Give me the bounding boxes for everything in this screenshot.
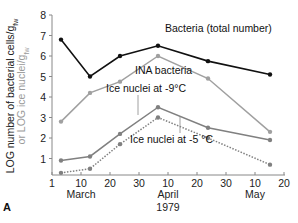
year-label: 1979 [156, 201, 180, 213]
series-layer [59, 37, 272, 175]
data-point [206, 126, 210, 130]
y-tick-label: 3 [40, 112, 46, 124]
data-point [59, 158, 63, 162]
data-point [156, 105, 160, 109]
data-point [156, 54, 160, 58]
data-point [206, 59, 210, 63]
data-point [59, 171, 63, 175]
data-point [268, 72, 272, 76]
x-tick-label: 20 [104, 177, 116, 189]
data-point [156, 115, 160, 119]
panel-label: A [3, 201, 11, 213]
series-label-ina-bacteria: INA bacteria [135, 64, 192, 76]
data-point [268, 162, 272, 166]
month-label-march: March [66, 188, 95, 200]
month-label-april: April [157, 188, 178, 200]
series-label-bacteria-total: Bacteria (total number) [165, 22, 272, 34]
month-label-may: May [245, 188, 266, 200]
y-tick-label: 5 [40, 71, 46, 83]
data-point [118, 54, 122, 58]
series-line [61, 118, 270, 173]
line-chart: 12345678 11020301020301020 LOG number of… [0, 0, 298, 223]
x-tick-label: 20 [278, 177, 290, 189]
y-tick-label: 1 [40, 153, 46, 165]
data-point [88, 154, 92, 158]
y-axis-title-secondary: or LOG ice nuclei/gfw [15, 47, 30, 145]
series-label-ice-nuclei-9: Ice nuclei at -9°C [106, 82, 186, 94]
y-tick-label: 4 [40, 91, 46, 103]
y-tick-label: 7 [40, 30, 46, 42]
series-label-ice-nuclei-5: Ice nuclei at -5 °C [130, 133, 213, 145]
y-tick-label: 6 [40, 50, 46, 62]
x-axis: 11020301020301020 [49, 172, 290, 189]
data-point [118, 132, 122, 136]
svg-text:or LOG ice nuclei/gfw: or LOG ice nuclei/gfw [15, 47, 30, 145]
data-point [118, 142, 122, 146]
data-point [59, 119, 63, 123]
data-point [88, 74, 92, 78]
data-point [206, 76, 210, 80]
y-tick-label: 2 [40, 132, 46, 144]
data-point [268, 130, 272, 134]
data-point [156, 44, 160, 48]
y-axis: 12345678 [40, 9, 52, 175]
x-tick-label: 20 [191, 177, 203, 189]
data-point [88, 167, 92, 171]
x-tick-label: 30 [220, 177, 232, 189]
y-tick-label: 8 [40, 9, 46, 21]
data-point [59, 37, 63, 41]
data-point [88, 91, 92, 95]
x-tick-label: 30 [133, 177, 145, 189]
data-point [268, 138, 272, 142]
x-tick-label: 1 [49, 177, 55, 189]
